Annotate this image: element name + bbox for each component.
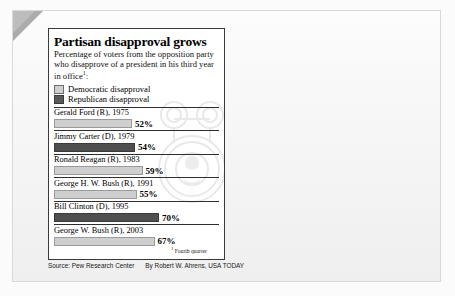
- screenshot-root: Partisan disapproval grows Percentage of…: [0, 0, 455, 296]
- bar-item: Gerald Ford (R), 197552%: [54, 107, 219, 130]
- chart-subtitle: Percentage of voters from the opposition…: [54, 50, 219, 82]
- chart-legend: Democratic disapproval Republican disapp…: [54, 85, 219, 104]
- bar-item: George W. Bush (R), 200367%: [54, 224, 219, 247]
- legend-item-democratic: Democratic disapproval: [54, 85, 219, 94]
- legend-swatch-democratic-icon: [54, 85, 64, 94]
- bar-value-label: 70%: [162, 213, 180, 223]
- chart-footnote: 1 Fourth quarter: [171, 246, 217, 254]
- bar-republican: [54, 143, 135, 152]
- chart-title: Partisan disapproval grows: [54, 34, 219, 49]
- bar-row: 67%: [54, 236, 219, 247]
- bar-category-label: Jimmy Carter (D), 1979: [54, 130, 219, 142]
- bar-value-label: 67%: [158, 236, 176, 246]
- bar-item: Ronald Reagan (R), 198359%: [54, 154, 219, 177]
- bar-value-label: 54%: [138, 142, 156, 152]
- bar-democratic: [54, 166, 143, 175]
- bar-category-label: George W. Bush (R), 2003: [54, 224, 219, 236]
- bar-category-label: George H. W. Bush (R), 1991: [54, 177, 219, 189]
- credit-text: By Robert W. Ahrens, USA TODAY: [145, 262, 244, 269]
- bar-row: 70%: [54, 212, 219, 223]
- chart-card: Partisan disapproval grows Percentage of…: [48, 28, 225, 260]
- bar-row: 59%: [54, 165, 219, 176]
- legend-label-democratic: Democratic disapproval: [68, 85, 150, 94]
- source-line: Source: Pew Research Center By Robert W.…: [48, 262, 248, 269]
- bar-category-label: Gerald Ford (R), 1975: [54, 107, 219, 119]
- chart-subtitle-text: Percentage of voters from the opposition…: [54, 49, 214, 81]
- bar-republican: [54, 213, 159, 222]
- bar-row: 54%: [54, 142, 219, 153]
- bar-row: 55%: [54, 189, 219, 200]
- subtitle-footnote-marker: 1: [83, 70, 86, 76]
- bar-democratic: [54, 237, 155, 246]
- source-text: Source: Pew Research Center: [48, 262, 134, 269]
- bar-value-label: 55%: [140, 189, 158, 199]
- footnote-text: Fourth quarter: [175, 248, 207, 254]
- bar-item: Bill Clinton (D), 199570%: [54, 201, 219, 224]
- bar-category-label: Bill Clinton (D), 1995: [54, 201, 219, 213]
- bar-value-label: 59%: [146, 166, 164, 176]
- bar-row: 52%: [54, 118, 219, 129]
- bar-item: Jimmy Carter (D), 197954%: [54, 130, 219, 153]
- legend-item-republican: Republican disapproval: [54, 95, 219, 104]
- bar-series: Gerald Ford (R), 197552%Jimmy Carter (D)…: [54, 107, 219, 247]
- bar-democratic: [54, 190, 137, 199]
- legend-label-republican: Republican disapproval: [68, 95, 149, 104]
- bar-value-label: 52%: [135, 119, 153, 129]
- bar-category-label: Ronald Reagan (R), 1983: [54, 154, 219, 166]
- page-curl-icon: [13, 11, 35, 33]
- bar-democratic: [54, 119, 132, 128]
- legend-swatch-republican-icon: [54, 95, 64, 104]
- bar-item: George H. W. Bush (R), 199155%: [54, 177, 219, 200]
